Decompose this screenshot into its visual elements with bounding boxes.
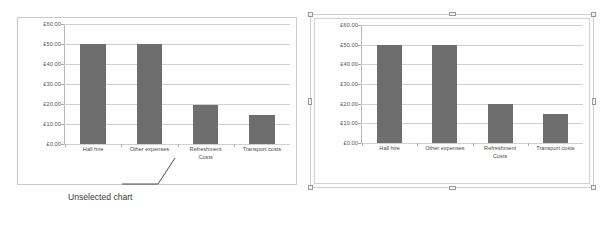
- bar-slot: [528, 25, 583, 143]
- y-tick-mark: [61, 144, 64, 145]
- y-tick-mark: [61, 24, 64, 25]
- x-tick-label-line1: Refreshment: [484, 145, 516, 151]
- y-tick-label: £30.00: [340, 81, 358, 87]
- resize-handle-middle-left-icon[interactable]: [308, 98, 312, 105]
- bar-series-selected: [362, 25, 583, 143]
- plot-area-selected: £60.00 £50.00 £40.00 £30.00 £20.00 £10.0…: [315, 19, 589, 183]
- y-tick-mark: [358, 123, 361, 124]
- resize-handle-top-left-icon[interactable]: [308, 12, 313, 17]
- y-tick-mark: [358, 84, 361, 85]
- bar-slot: [234, 24, 290, 144]
- grid-box-selected: [361, 25, 583, 143]
- y-tick-label: £40.00: [340, 61, 358, 67]
- selected-chart-selection-frame[interactable]: £60.00 £50.00 £40.00 £30.00 £20.00 £10.0…: [310, 14, 594, 188]
- selected-chart-panel: £60.00 £50.00 £40.00 £30.00 £20.00 £10.0…: [302, 0, 604, 248]
- y-tick-mark: [61, 44, 64, 45]
- y-tick-label: £0.00: [344, 140, 359, 146]
- bar-slot: [121, 24, 177, 144]
- y-tick-mark: [61, 104, 64, 105]
- x-tick-label-line2: Costs: [198, 154, 212, 160]
- bar-slot: [473, 25, 528, 143]
- y-tick-label: £40.00: [43, 61, 61, 67]
- bar-series-unselected: [65, 24, 290, 144]
- resize-handle-top-center-icon[interactable]: [449, 12, 456, 16]
- bar-other-expenses[interactable]: [137, 44, 162, 144]
- y-tick-mark: [61, 84, 64, 85]
- bar-transport-costs[interactable]: [249, 115, 274, 144]
- x-tick-label: Transport costs: [234, 146, 290, 170]
- bar-refreshment-costs[interactable]: [488, 104, 513, 143]
- y-axis-labels-unselected: £60.00 £50.00 £40.00 £30.00 £20.00 £10.0…: [21, 24, 61, 144]
- y-tick-label: £0.00: [47, 141, 62, 147]
- bar-slot: [417, 25, 472, 143]
- y-tick-label: £10.00: [43, 121, 61, 127]
- y-tick-label: £60.00: [43, 21, 61, 27]
- x-tick-label: RefreshmentCosts: [178, 146, 234, 170]
- y-axis-labels-selected: £60.00 £50.00 £40.00 £30.00 £20.00 £10.0…: [318, 25, 358, 143]
- y-tick-label: £20.00: [340, 101, 358, 107]
- caption-unselected-chart: Unselected chart: [68, 192, 133, 203]
- grid-box-unselected: [64, 24, 290, 144]
- y-tick-mark: [358, 64, 361, 65]
- bar-transport-costs[interactable]: [543, 114, 568, 143]
- x-tick-label: Hall hire: [65, 146, 121, 170]
- resize-handle-top-right-icon[interactable]: [591, 12, 596, 17]
- x-tick-label: Other expenses: [417, 145, 472, 169]
- resize-handle-bottom-right-icon[interactable]: [591, 185, 596, 190]
- bar-hall-hire[interactable]: [377, 45, 402, 143]
- y-tick-mark: [358, 45, 361, 46]
- x-tick-label: Transport costs: [528, 145, 583, 169]
- bar-slot: [178, 24, 234, 144]
- bar-slot: [65, 24, 121, 144]
- y-tick-label: £50.00: [340, 42, 358, 48]
- resize-handle-middle-right-icon[interactable]: [592, 98, 596, 105]
- y-tick-label: £30.00: [43, 81, 61, 87]
- y-tick-mark: [61, 64, 64, 65]
- bar-hall-hire[interactable]: [80, 44, 105, 144]
- y-tick-mark: [61, 124, 64, 125]
- unselected-chart-panel: £60.00 £50.00 £40.00 £30.00 £20.00 £10.0…: [0, 0, 302, 248]
- y-tick-label: £20.00: [43, 101, 61, 107]
- y-tick-mark: [358, 143, 361, 144]
- resize-handle-bottom-center-icon[interactable]: [449, 186, 456, 190]
- bar-refreshment-costs[interactable]: [193, 105, 218, 144]
- y-tick-label: £50.00: [43, 41, 61, 47]
- bar-other-expenses[interactable]: [432, 45, 457, 143]
- y-tick-mark: [358, 25, 361, 26]
- bar-slot: [362, 25, 417, 143]
- x-tick-label-line2: Costs: [493, 153, 507, 159]
- y-tick-label: £60.00: [340, 22, 358, 28]
- y-tick-mark: [358, 104, 361, 105]
- selected-chart[interactable]: £60.00 £50.00 £40.00 £30.00 £20.00 £10.0…: [314, 18, 590, 184]
- resize-handle-bottom-left-icon[interactable]: [308, 185, 313, 190]
- x-tick-label: Hall hire: [362, 145, 417, 169]
- x-axis-labels-selected: Hall hire Other expenses RefreshmentCost…: [362, 145, 583, 169]
- x-tick-label: RefreshmentCosts: [473, 145, 528, 169]
- x-tick-label-line1: Refreshment: [190, 146, 222, 152]
- y-tick-label: £10.00: [340, 120, 358, 126]
